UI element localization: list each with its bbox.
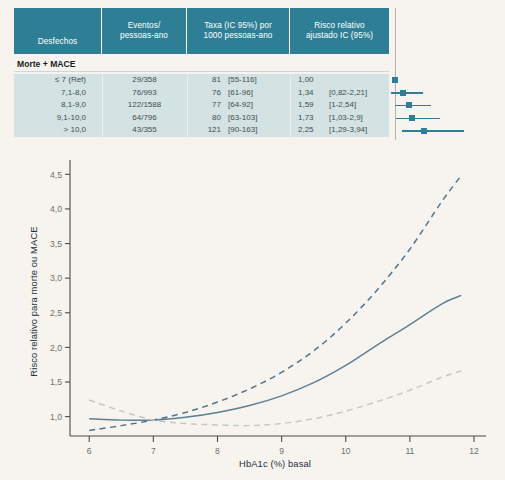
cell-taxa: 80 [63-103] — [187, 112, 290, 125]
cell-taxa-ci: [55-116] — [221, 74, 257, 87]
table-row: ≤ 7 (Ref) 29/358 81 [55-116] 1,00 — [14, 74, 389, 87]
cell-risco-relativo: 1,34 [0,82-2,21] — [290, 87, 389, 100]
cell-taxa-value: 81 — [195, 74, 221, 87]
y-axis-tick-label: 4,0 — [50, 204, 62, 214]
table-header-row: Desfechos Eventos/ pessoas-ano Taxa (IC … — [14, 8, 389, 54]
x-axis-tick-label: 8 — [215, 446, 220, 456]
cell-eventos: 43/355 — [102, 124, 187, 137]
column-header-risco-line1: Risco relativo — [306, 21, 373, 32]
forest-row — [390, 99, 502, 112]
column-header-risco-line2: ajustado IC (95%) — [306, 31, 373, 42]
chart-canvas: 1,01,52,02,53,03,54,04,56789101112 — [0, 146, 505, 480]
x-axis-tick-label: 11 — [405, 446, 414, 456]
cell-rr-value: 1,34 — [298, 87, 324, 100]
column-header-desfechos: Desfechos — [14, 8, 102, 54]
table-row: 8,1-9,0 122/1588 77 [64-92] 1,59 [1-2,54… — [14, 99, 389, 112]
cell-risco-relativo: 2,25 [1,29-3,94] — [290, 124, 389, 137]
cell-taxa-ci: [90-163] — [221, 124, 257, 137]
chart-series-line — [89, 176, 461, 431]
forest-confidence-interval — [402, 130, 464, 131]
column-header-eventos-line1: Eventos/ — [120, 21, 168, 32]
table-column-divider — [102, 74, 103, 137]
table-column-divider — [187, 74, 188, 137]
cell-desfecho: > 10,0 — [14, 124, 102, 137]
table-column-divider — [290, 74, 291, 137]
cell-taxa-ci: [63-103] — [221, 112, 257, 125]
forest-row — [390, 87, 502, 100]
y-axis-tick-label: 1,5 — [50, 377, 62, 387]
forest-plot — [390, 8, 502, 140]
column-header-eventos-line2: pessoas-ano — [120, 31, 168, 42]
forest-confidence-interval — [391, 92, 424, 93]
cell-rr-value: 1,59 — [298, 99, 324, 112]
line-chart: 1,01,52,02,53,03,54,04,56789101112 Risco… — [0, 146, 505, 480]
x-axis-tick-label: 12 — [469, 446, 479, 456]
cell-eventos: 64/796 — [102, 112, 187, 125]
column-header-desfechos-line1: Desfechos — [38, 37, 78, 48]
cell-eventos: 122/1588 — [102, 99, 187, 112]
forest-confidence-interval — [395, 105, 431, 106]
forest-confidence-interval — [396, 118, 440, 119]
x-axis-tick-label: 7 — [151, 446, 156, 456]
cell-taxa-ci: [64-92] — [221, 99, 253, 112]
x-axis-tick-label: 6 — [87, 446, 92, 456]
cell-desfecho: 9,1-10,0 — [14, 112, 102, 125]
y-axis-tick-label: 1,0 — [50, 412, 62, 422]
cell-risco-relativo: 1,00 — [290, 74, 389, 87]
cell-taxa-value: 121 — [195, 124, 221, 137]
chart-series-line — [89, 295, 461, 420]
y-axis-tick-label: 4,5 — [50, 170, 62, 180]
cell-rr-ci: [0,82-2,21] — [324, 87, 367, 100]
cell-rr-ci: [1,03-2,9] — [324, 112, 363, 125]
column-header-taxa-line1: Taxa (IC 95%) por — [204, 21, 273, 32]
column-header-taxa: Taxa (IC 95%) por 1000 pessoas-ano — [187, 8, 290, 54]
cell-rr-value: 1,00 — [298, 74, 324, 87]
x-axis-label: HbA1c (%) basal — [70, 458, 480, 469]
y-axis-tick-label: 2,0 — [50, 343, 62, 353]
y-axis-tick-label: 3,5 — [50, 239, 62, 249]
cell-eventos: 29/358 — [102, 74, 187, 87]
cell-risco-relativo: 1,73 [1,03-2,9] — [290, 112, 389, 125]
table-row: 7,1-8,0 76/993 76 [61-96] 1,34 [0,82-2,2… — [14, 87, 389, 100]
forest-row — [390, 124, 502, 137]
forest-point-estimate — [392, 77, 398, 83]
table-row: > 10,0 43/355 121 [90-163] 2,25 [1,29-3,… — [14, 124, 389, 137]
cell-risco-relativo: 1,59 [1-2,54] — [290, 99, 389, 112]
cell-taxa-value: 76 — [195, 87, 221, 100]
x-axis-tick-label: 9 — [279, 446, 284, 456]
cell-eventos: 76/993 — [102, 87, 187, 100]
cell-desfecho: ≤ 7 (Ref) — [14, 74, 102, 87]
table-section-label: Morte + MACE — [14, 56, 389, 72]
cell-rr-value: 2,25 — [298, 124, 324, 137]
y-axis-label: Risco relativo para morte ou MACE — [28, 207, 39, 397]
y-axis-tick-label: 2,5 — [50, 308, 62, 318]
cell-taxa: 81 [55-116] — [187, 74, 290, 87]
cell-taxa-value: 77 — [195, 99, 221, 112]
forest-point-estimate — [406, 102, 412, 108]
results-table: Desfechos Eventos/ pessoas-ano Taxa (IC … — [0, 0, 505, 140]
table-row: 9,1-10,0 64/796 80 [63-103] 1,73 [1,03-2… — [14, 112, 389, 125]
column-header-risco-relativo: Risco relativo ajustado IC (95%) — [290, 8, 389, 54]
cell-taxa: 77 [64-92] — [187, 99, 290, 112]
cell-taxa-value: 80 — [195, 112, 221, 125]
forest-point-estimate — [409, 115, 415, 121]
x-axis-tick-label: 10 — [341, 446, 351, 456]
cell-rr-ci: [1-2,54] — [324, 99, 356, 112]
forest-point-estimate — [421, 128, 427, 134]
figure-root: Desfechos Eventos/ pessoas-ano Taxa (IC … — [0, 0, 505, 480]
column-header-eventos: Eventos/ pessoas-ano — [102, 8, 187, 54]
y-axis-tick-label: 3,0 — [50, 273, 62, 283]
cell-rr-value: 1,73 — [298, 112, 324, 125]
cell-taxa: 76 [61-96] — [187, 87, 290, 100]
forest-row — [390, 112, 502, 125]
cell-rr-ci: [1,29-3,94] — [324, 124, 367, 137]
forest-row — [390, 74, 502, 87]
cell-taxa-ci: [61-96] — [221, 87, 253, 100]
table-body: ≤ 7 (Ref) 29/358 81 [55-116] 1,00 7,1-8,… — [14, 74, 389, 137]
forest-point-estimate — [400, 90, 406, 96]
column-header-taxa-line2: 1000 pessoas-ano — [204, 31, 273, 42]
cell-desfecho: 7,1-8,0 — [14, 87, 102, 100]
cell-taxa: 121 [90-163] — [187, 124, 290, 137]
cell-desfecho: 8,1-9,0 — [14, 99, 102, 112]
